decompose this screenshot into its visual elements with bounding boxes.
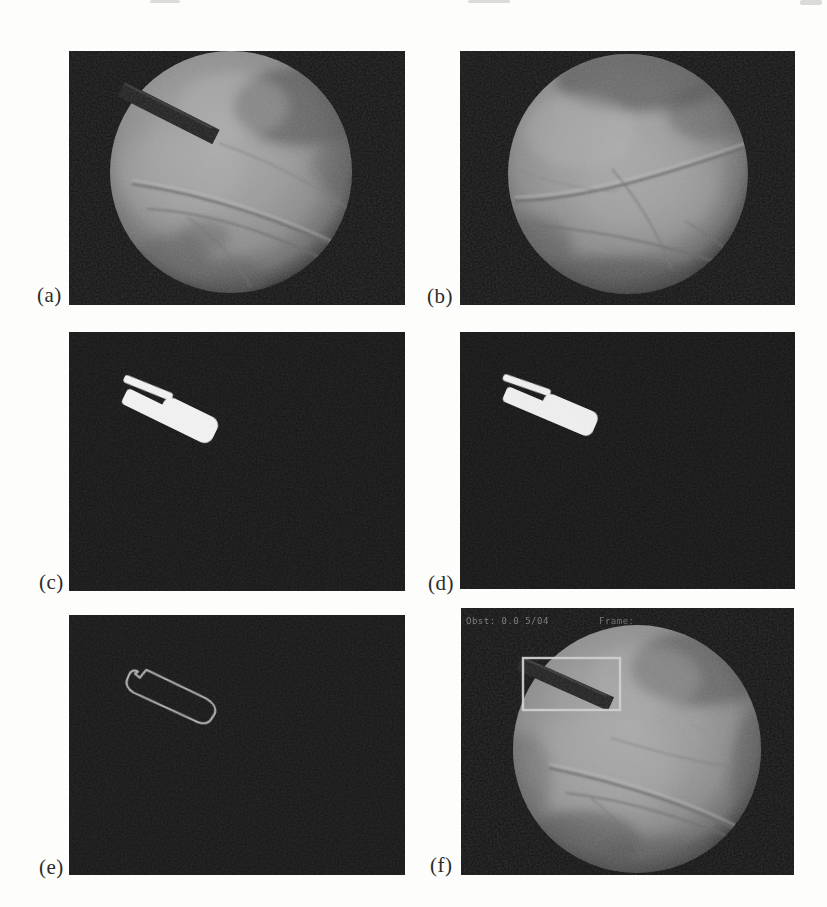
instrument-segmentation-mask-refined	[460, 332, 795, 589]
film-grain	[460, 51, 795, 305]
endoscopic-image-with-detection: Obst: 0.0 5/04 Frame:	[461, 608, 794, 875]
film-grain	[461, 608, 794, 875]
subfigure-label-b: (b)	[427, 284, 453, 308]
endoscopic-image-with-instrument	[69, 51, 405, 305]
subfigure-label-c: (c)	[39, 570, 64, 594]
subfigure-e	[69, 615, 405, 875]
subfigure-c	[69, 332, 405, 591]
subfigure-b	[460, 51, 795, 305]
scanned-figure-page: (a)	[0, 0, 827, 907]
endoscopic-image-clean	[460, 51, 795, 305]
subfigure-label-f: (f)	[430, 853, 452, 877]
subfigure-a	[69, 51, 405, 305]
subfigure-d	[460, 332, 795, 589]
film-grain	[69, 51, 405, 305]
subfigure-f: Obst: 0.0 5/04 Frame:	[461, 608, 794, 875]
scan-artifact	[800, 0, 822, 5]
scan-artifact	[468, 0, 510, 3]
subfigure-label-e: (e)	[39, 855, 64, 879]
subfigure-label-d: (d)	[428, 571, 454, 595]
film-grain	[69, 615, 405, 875]
scan-artifact	[150, 0, 180, 3]
film-grain	[460, 332, 795, 589]
subfigure-label-a: (a)	[37, 283, 62, 307]
instrument-segmentation-mask	[69, 332, 405, 591]
film-grain	[69, 332, 405, 591]
instrument-contour-image	[69, 615, 405, 875]
